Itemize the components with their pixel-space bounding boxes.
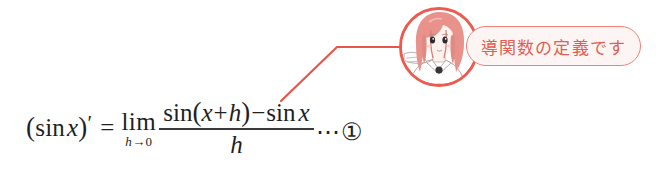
formula-lhs: (sinx)′	[26, 114, 92, 141]
lim-sub-arrow: →	[132, 134, 145, 149]
num-minus: −	[250, 99, 266, 126]
lhs-sin: sin	[35, 114, 65, 141]
num-plus: +	[213, 99, 229, 126]
limit-operator: lim h→0	[121, 109, 156, 148]
num-variable-x: x	[201, 99, 212, 126]
fraction-denominator: h	[226, 130, 247, 158]
ellipsis: ⋯	[316, 119, 341, 145]
fraction-numerator: sin(x+h)−sinx	[159, 98, 313, 128]
num-close-paren: )	[241, 97, 250, 127]
lim-sub-value: 0	[145, 134, 152, 149]
lim-subscript: h→0	[125, 135, 152, 148]
speech-bubble-text: 導関数の定義です	[481, 34, 627, 59]
speech-bubble: 導関数の定義です	[466, 26, 641, 66]
equation-tag: ⋯①	[316, 120, 364, 144]
num-variable-x2: x	[298, 99, 309, 126]
lhs-variable-x: x	[67, 114, 78, 141]
prime-symbol: ′	[87, 111, 92, 135]
fraction: sin(x+h)−sinx h	[159, 98, 313, 158]
num-sin-2: sin	[266, 99, 295, 126]
num-sin-1: sin	[163, 99, 192, 126]
character-portrait-art	[402, 10, 476, 84]
equation-number: ①	[341, 119, 364, 145]
lhs-open-paren: (	[26, 112, 35, 142]
equals-sign: =	[100, 115, 114, 140]
page-root: (sinx)′ = lim h→0 sin(x+h)−sinx h ⋯①	[0, 0, 669, 177]
math-formula: (sinx)′ = lim h→0 sin(x+h)−sinx h ⋯①	[26, 98, 363, 158]
num-variable-h: h	[229, 99, 242, 126]
lim-label: lim	[121, 109, 156, 134]
